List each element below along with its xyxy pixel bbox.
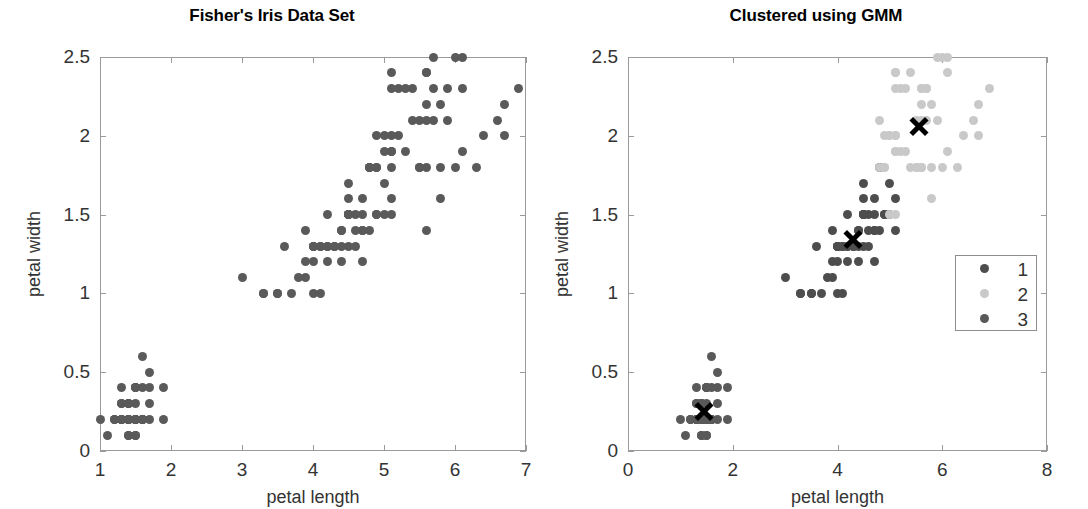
x-tick-mark (942, 445, 943, 451)
y-tick-label: 2 (30, 125, 90, 147)
data-point (380, 179, 389, 188)
y-tick-label: 0.5 (558, 361, 618, 383)
x-tick-mark (628, 445, 629, 451)
data-point (451, 163, 460, 172)
data-point (896, 84, 905, 93)
y-tick-label: 2 (558, 125, 618, 147)
data-point (273, 289, 282, 298)
data-point (781, 273, 790, 282)
data-point (723, 415, 732, 424)
x-tick-mark-top (171, 57, 172, 63)
y-tick-mark (100, 372, 106, 373)
centroid-x-marker (906, 113, 932, 139)
y-tick-label: 2.5 (30, 46, 90, 68)
data-point (394, 84, 403, 93)
y-tick-mark (628, 215, 634, 216)
data-point (408, 84, 417, 93)
x-tick-label: 2 (166, 459, 177, 481)
x-tick-mark (1047, 445, 1048, 451)
x-tick-mark-top (313, 57, 314, 63)
data-point (422, 100, 431, 109)
data-point (387, 68, 396, 77)
data-point (458, 53, 467, 62)
y-tick-mark (100, 451, 106, 452)
data-point (880, 163, 889, 172)
legend-item-3[interactable]: 3 (956, 306, 1036, 331)
x-tick-mark-top (1047, 57, 1048, 63)
y-tick-label: 2.5 (558, 46, 618, 68)
data-point (238, 273, 247, 282)
data-point (259, 289, 268, 298)
data-point (96, 415, 105, 424)
data-point (351, 226, 360, 235)
y-tick-mark-right (1041, 293, 1047, 294)
x-tick-label: 6 (450, 459, 461, 481)
legend-item-1[interactable]: 1 (956, 256, 1036, 281)
data-point (933, 116, 942, 125)
y-tick-mark (628, 451, 634, 452)
x-tick-mark (384, 445, 385, 451)
legend[interactable]: 123 (955, 255, 1037, 331)
data-point (415, 163, 424, 172)
y-tick-mark-right (520, 136, 526, 137)
y-tick-label: 0.5 (30, 361, 90, 383)
legend-marker-icon (980, 289, 989, 298)
y-tick-mark (100, 136, 106, 137)
data-point (823, 273, 832, 282)
data-point (713, 368, 722, 377)
data-point (697, 431, 706, 440)
plot-title-left: Fisher's Iris Data Set (0, 6, 544, 26)
data-point (280, 242, 289, 251)
data-point (380, 147, 389, 156)
data-point (969, 116, 978, 125)
data-point (323, 210, 332, 219)
legend-item-2[interactable]: 2 (956, 281, 1036, 306)
data-point (387, 210, 396, 219)
data-point (891, 194, 900, 203)
data-point (458, 84, 467, 93)
x-tick-mark (242, 445, 243, 451)
data-point (316, 242, 325, 251)
data-point (943, 53, 952, 62)
x-tick-mark (313, 445, 314, 451)
x-tick-label: 1 (95, 459, 106, 481)
x-tick-mark-top (628, 57, 629, 63)
data-point (870, 257, 879, 266)
x-tick-label: 3 (237, 459, 248, 481)
y-tick-label: 0 (558, 440, 618, 462)
data-point (891, 131, 900, 140)
data-point (870, 194, 879, 203)
data-point (493, 116, 502, 125)
x-tick-mark (838, 445, 839, 451)
y-tick-mark (100, 215, 106, 216)
data-point (145, 368, 154, 377)
data-point (443, 116, 452, 125)
y-tick-mark-right (520, 215, 526, 216)
panel-clustered-gmm: Clustered using GMM 00.511.522.502468 pe… (544, 0, 1088, 509)
data-point (500, 100, 509, 109)
x-tick-mark-top (838, 57, 839, 63)
data-point (875, 226, 884, 235)
x-tick-mark (526, 445, 527, 451)
axes-frame-right (628, 57, 1047, 451)
data-point (891, 68, 900, 77)
data-point (875, 116, 884, 125)
data-point (676, 415, 685, 424)
figure-root: Fisher's Iris Data Set 00.511.522.512345… (0, 0, 1088, 509)
y-tick-mark-right (520, 293, 526, 294)
data-point (885, 179, 894, 188)
data-point (870, 210, 879, 219)
x-tick-mark-top (733, 57, 734, 63)
data-point (828, 226, 837, 235)
y-tick-mark-right (1041, 215, 1047, 216)
x-tick-mark (100, 445, 101, 451)
x-tick-label: 4 (308, 459, 319, 481)
x-tick-label: 6 (937, 459, 948, 481)
data-point (124, 431, 133, 440)
data-point (985, 84, 994, 93)
y-tick-mark (100, 293, 106, 294)
data-point (681, 431, 690, 440)
data-point (812, 242, 821, 251)
data-point (422, 116, 431, 125)
legend-label: 1 (1017, 259, 1028, 278)
